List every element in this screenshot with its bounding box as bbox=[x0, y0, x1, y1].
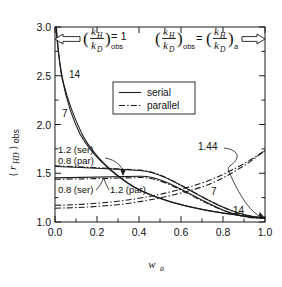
label-08-par: 0.8 (par) bbox=[58, 155, 94, 166]
y-axis-title-sub: HD bbox=[12, 152, 21, 165]
y-tick-label: 1.5 bbox=[36, 167, 51, 179]
x-tick-label: 0.4 bbox=[132, 226, 147, 238]
eq-left-den-sub: D bbox=[96, 45, 103, 54]
eq-right-paren1-open: ( bbox=[155, 29, 161, 48]
eq-right-outer-sub-1: obs bbox=[183, 42, 195, 51]
x-tick-label: 0.2 bbox=[90, 226, 105, 238]
label-14-bottom: 14 bbox=[233, 205, 245, 216]
legend-box: serial parallel bbox=[113, 82, 195, 114]
eq-left-paren-close: ) bbox=[105, 29, 111, 48]
eq-left-tail: = 1 bbox=[111, 30, 127, 42]
legend-label-serial: serial bbox=[147, 87, 171, 98]
label-08-ser: 0.8 (ser) bbox=[58, 184, 93, 195]
legend-label-parallel: parallel bbox=[147, 100, 179, 111]
label-12-par: 1.2 (par) bbox=[110, 184, 146, 195]
eq-right-den-sub-2: D bbox=[219, 45, 226, 54]
chart-svg: 3.0 2.5 2.0 1.5 1.0 0.0 0.2 0.4 0.6 0.8 … bbox=[0, 0, 282, 287]
label-144: 1.44 bbox=[198, 141, 218, 152]
figure-container: 3.0 2.5 2.0 1.5 1.0 0.0 0.2 0.4 0.6 0.8 … bbox=[0, 0, 282, 287]
eq-right-den-sub-1: D bbox=[168, 45, 175, 54]
y-axis-title-close: ) bbox=[8, 146, 18, 149]
eq-right-paren1-close: ) bbox=[177, 29, 183, 48]
x-tick-label: 1.0 bbox=[258, 226, 273, 238]
y-axis-title-obs: obs bbox=[11, 129, 21, 143]
eq-right-paren2-close: ) bbox=[228, 29, 234, 48]
chart-background bbox=[0, 0, 282, 287]
y-tick-label: 2.5 bbox=[36, 70, 51, 82]
y-axis-title-open: ( bbox=[8, 173, 18, 176]
label-7-top: 7 bbox=[62, 108, 68, 119]
label-7-bottom: 7 bbox=[211, 186, 217, 197]
eq-left-paren-open: ( bbox=[83, 29, 89, 48]
y-tick-label: 3.0 bbox=[36, 21, 51, 33]
eq-right-paren2-open: ( bbox=[206, 29, 212, 48]
x-axis-title-sub: a bbox=[160, 264, 164, 273]
y-axis-title-main: r bbox=[6, 165, 18, 170]
x-axis-title-main: w bbox=[148, 258, 156, 270]
label-12-ser: 1.2 (ser) bbox=[58, 144, 93, 155]
eq-left-outer-sub: obs bbox=[111, 42, 123, 51]
x-tick-label: 0.0 bbox=[48, 226, 63, 238]
x-tick-label: 0.8 bbox=[216, 226, 231, 238]
x-tick-label: 0.6 bbox=[174, 226, 189, 238]
label-14-top: 14 bbox=[69, 69, 81, 80]
y-tick-label: 2.0 bbox=[36, 119, 51, 131]
eq-right-equals: = bbox=[196, 32, 202, 44]
